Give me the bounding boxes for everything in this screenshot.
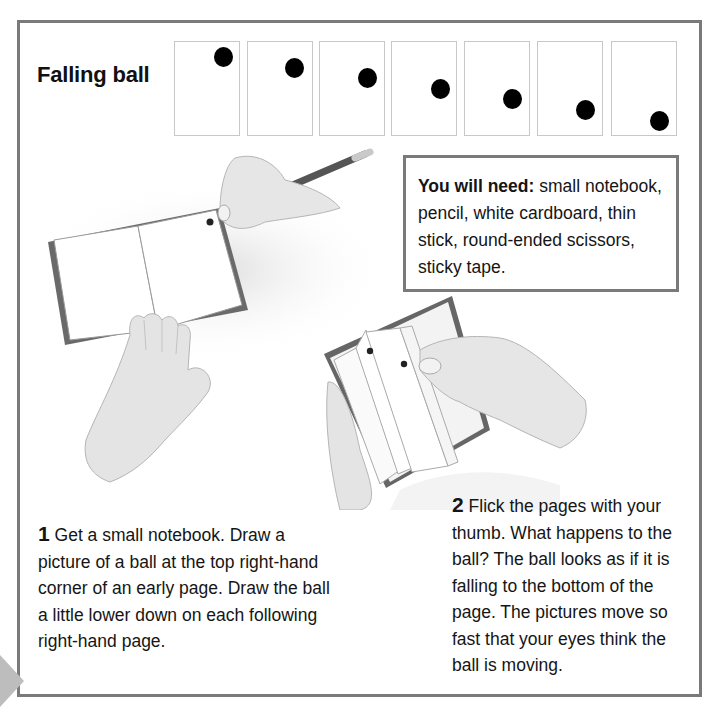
page-corner-decoration: [0, 655, 24, 707]
flipbook-frame-7: [611, 41, 677, 136]
flicking-pages-illustration: [300, 290, 600, 510]
ball-icon: [431, 79, 450, 99]
materials-label: You will need:: [418, 176, 534, 196]
step-2-body: Flick the pages with your thumb. What ha…: [452, 496, 672, 675]
step-1-number: 1: [38, 522, 50, 545]
materials-box: You will need: small notebook, pencil, w…: [403, 155, 679, 292]
step-1-text: 1 Get a small notebook. Draw a picture o…: [38, 521, 338, 655]
flipbook-frame-6: [537, 41, 603, 136]
flipbook-frame-2: [247, 41, 313, 136]
ball-icon: [285, 58, 304, 78]
flipbook-frame-5: [464, 41, 530, 136]
flipbook-frame-1: [174, 41, 240, 136]
page-title: Falling ball: [37, 62, 150, 88]
ball-icon: [576, 100, 595, 120]
ball-icon: [503, 89, 522, 109]
materials-text: You will need: small notebook, pencil, w…: [418, 173, 673, 281]
flipbook-frame-4: [391, 41, 457, 136]
ball-icon: [214, 47, 233, 67]
step-2-text: 2 Flick the pages with your thumb. What …: [452, 492, 697, 679]
ball-icon: [650, 111, 669, 131]
ball-icon: [358, 68, 377, 88]
flipbook-frame-3: [319, 41, 385, 136]
step-2-number: 2: [452, 493, 464, 516]
step-1-body: Get a small notebook. Draw a picture of …: [38, 525, 330, 651]
